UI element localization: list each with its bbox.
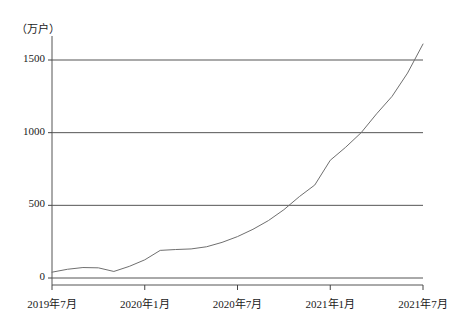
y-tick-label-1500: 1500 (23, 52, 45, 64)
y-tick-label-500: 500 (29, 197, 46, 209)
data-series-line (52, 44, 423, 272)
y-tick-label-1000: 1000 (23, 125, 45, 137)
x-axis-ticks-group (52, 285, 423, 290)
axes-group (52, 36, 423, 285)
y-axis-ticks-group (48, 60, 52, 278)
x-tick-label-0: 2019年7月 (7, 295, 97, 311)
chart-canvas (0, 0, 461, 320)
y-tick-label-0: 0 (40, 270, 46, 282)
gridlines-group (52, 60, 423, 278)
x-tick-label-2: 2020年7月 (193, 295, 283, 311)
x-tick-label-3: 2021年1月 (285, 295, 375, 311)
x-tick-label-1: 2020年1月 (100, 295, 190, 311)
line-chart-figure: （万户） 050010001500 2019年7月2020年1月2020年7月2… (0, 0, 461, 320)
x-tick-label-4: 2021年7月 (378, 295, 461, 311)
